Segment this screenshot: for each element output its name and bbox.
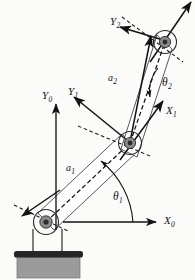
label-y1: Y1 bbox=[68, 86, 78, 97]
diagram-canvas bbox=[0, 0, 195, 280]
label-theta1: θ1 bbox=[113, 191, 122, 203]
label-y2: Y2 bbox=[110, 16, 120, 27]
kinematic-diagram: Y0 X0 Y1 X1 Y2 a1 a2 θ1 θ2 bbox=[0, 0, 195, 280]
label-a1: a1 bbox=[66, 163, 75, 173]
label-x1: X1 bbox=[166, 105, 176, 116]
label-x0: X0 bbox=[164, 215, 174, 226]
label-theta2: θ2 bbox=[162, 77, 171, 89]
label-y0: Y0 bbox=[42, 90, 52, 101]
label-a2: a2 bbox=[108, 73, 117, 83]
robot-base bbox=[14, 229, 83, 278]
